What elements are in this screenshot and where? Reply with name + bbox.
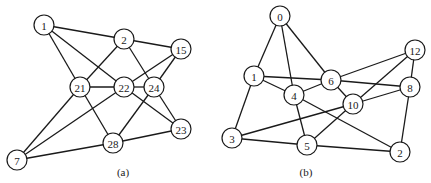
graph-a-edge-28-7 bbox=[17, 143, 113, 160]
node-label: 8 bbox=[407, 82, 413, 94]
node-label: 21 bbox=[75, 82, 86, 94]
graph-b-node-10: 10 bbox=[343, 94, 363, 114]
graph-b-edge-6-12 bbox=[331, 50, 415, 80]
graph-a-edge-1-21 bbox=[44, 25, 80, 87]
graph-b-node-2: 2 bbox=[390, 142, 410, 162]
node-label: 2 bbox=[121, 34, 127, 46]
graph-a-node-7: 7 bbox=[7, 150, 27, 170]
node-label: 10 bbox=[348, 99, 360, 111]
graph-b-node-5: 5 bbox=[297, 135, 317, 155]
node-label: 4 bbox=[291, 90, 297, 102]
graph-b-edge-0-6 bbox=[280, 16, 331, 80]
graph-a-nodes: 121521222423287 bbox=[7, 15, 191, 170]
node-label: 0 bbox=[277, 11, 283, 23]
graph-b-node-1: 1 bbox=[244, 66, 264, 86]
graph-b-node-4: 4 bbox=[284, 85, 304, 105]
graph-a-node-1: 1 bbox=[34, 15, 54, 35]
graph-b-edge-0-4 bbox=[280, 16, 294, 95]
node-label: 7 bbox=[14, 155, 20, 167]
graph-b-nodes: 014612810352 bbox=[222, 6, 425, 162]
node-label: 6 bbox=[328, 75, 334, 87]
node-label: 3 bbox=[229, 133, 235, 145]
graph-a-node-21: 21 bbox=[70, 77, 90, 97]
graph-a: 121521222423287 (a) bbox=[7, 15, 191, 179]
node-label: 23 bbox=[176, 124, 188, 136]
node-label: 5 bbox=[304, 140, 310, 152]
graph-diagram: 121521222423287 (a) 014612810352 (b) bbox=[0, 0, 431, 183]
graph-a-edge-1-2 bbox=[44, 25, 124, 39]
graph-b: 014612810352 (b) bbox=[222, 6, 425, 179]
graph-a-node-28: 28 bbox=[103, 133, 123, 153]
node-label: 24 bbox=[149, 82, 161, 94]
graph-b-node-6: 6 bbox=[321, 70, 341, 90]
graph-a-node-15: 15 bbox=[171, 39, 191, 59]
graph-b-caption: (b) bbox=[300, 166, 313, 179]
graph-b-edge-3-5 bbox=[232, 138, 307, 145]
graph-b-edge-5-2 bbox=[307, 145, 400, 152]
node-label: 1 bbox=[251, 71, 257, 83]
graph-a-node-22: 22 bbox=[114, 77, 134, 97]
node-label: 12 bbox=[410, 45, 421, 57]
graph-a-caption: (a) bbox=[117, 166, 130, 179]
graph-a-node-2: 2 bbox=[114, 29, 134, 49]
graph-a-node-23: 23 bbox=[171, 119, 191, 139]
node-label: 22 bbox=[119, 82, 130, 94]
graph-b-node-12: 12 bbox=[405, 40, 425, 60]
node-label: 15 bbox=[176, 44, 188, 56]
graph-a-node-24: 24 bbox=[144, 77, 164, 97]
node-label: 28 bbox=[108, 138, 120, 150]
node-label: 1 bbox=[41, 20, 47, 32]
graph-b-edge-6-8 bbox=[331, 80, 410, 87]
graph-b-node-3: 3 bbox=[222, 128, 242, 148]
graph-b-node-0: 0 bbox=[270, 6, 290, 26]
graph-b-edge-1-6 bbox=[254, 76, 331, 80]
node-label: 2 bbox=[397, 147, 403, 159]
graph-b-node-8: 8 bbox=[400, 77, 420, 97]
